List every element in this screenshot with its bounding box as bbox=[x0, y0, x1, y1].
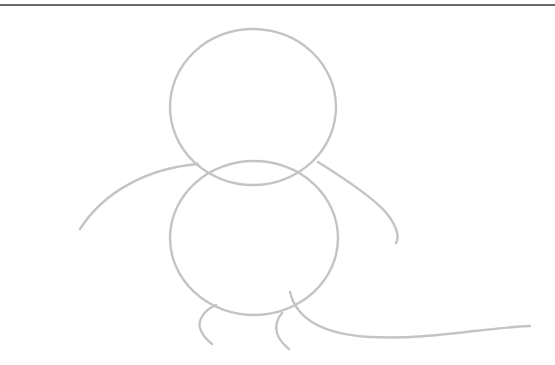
left-arm-stroke bbox=[80, 164, 198, 229]
right-arm-stroke bbox=[318, 162, 398, 243]
left-leg-stroke bbox=[200, 305, 216, 344]
sketch-canvas bbox=[0, 0, 555, 365]
right-leg-stroke bbox=[276, 313, 289, 349]
tail-stroke bbox=[290, 292, 530, 337]
